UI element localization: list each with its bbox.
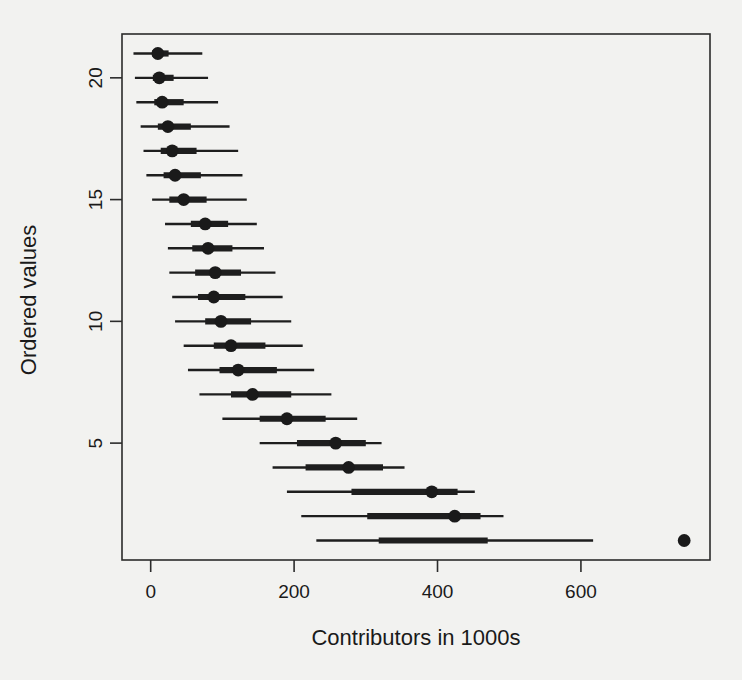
y-axis-tick-labels: 5101520 xyxy=(86,67,107,448)
interval-row xyxy=(188,364,314,377)
x-axis-tick-labels: 0200400600 xyxy=(145,581,596,602)
interval-row xyxy=(152,193,247,206)
median-point xyxy=(342,461,355,474)
y-axis-title: Ordered values xyxy=(16,225,41,375)
x-tick-label: 400 xyxy=(422,581,454,602)
interval-row xyxy=(273,461,405,474)
interval-row xyxy=(133,47,202,60)
median-point xyxy=(207,291,220,304)
interval-row xyxy=(199,388,331,401)
median-point xyxy=(177,193,190,206)
x-axis-title: Contributors in 1000s xyxy=(311,625,520,650)
interval-row xyxy=(222,412,357,425)
interval-row xyxy=(184,339,303,352)
median-point xyxy=(246,388,259,401)
median-point xyxy=(215,315,228,328)
interval-row xyxy=(165,218,257,231)
y-tick-label: 10 xyxy=(86,311,107,332)
x-tick-label: 200 xyxy=(278,581,310,602)
median-point xyxy=(281,412,294,425)
median-point xyxy=(161,120,174,133)
median-point xyxy=(151,47,164,60)
median-point xyxy=(209,266,222,279)
x-tick-label: 600 xyxy=(565,581,597,602)
median-point xyxy=(166,144,179,157)
interval-row xyxy=(146,169,242,182)
interval-row xyxy=(144,144,239,157)
x-axis-ticks xyxy=(151,560,581,572)
interval-row xyxy=(172,291,282,304)
y-tick-label: 15 xyxy=(86,189,107,210)
interval-row xyxy=(136,96,218,109)
median-point xyxy=(678,534,691,547)
interval-row xyxy=(260,437,382,450)
caterpillar-plot: 0200400600 5101520 Contributors in 1000s… xyxy=(0,0,742,680)
y-tick-label: 20 xyxy=(86,67,107,88)
interval-rows xyxy=(133,47,690,547)
median-point xyxy=(156,96,169,109)
interval-row xyxy=(169,266,275,279)
y-axis-ticks xyxy=(110,78,122,443)
median-point xyxy=(232,364,245,377)
interval-row xyxy=(141,120,230,133)
interval-row xyxy=(175,315,291,328)
interval-row xyxy=(168,242,264,255)
interval-row xyxy=(316,534,690,547)
median-point xyxy=(448,510,461,523)
interval-row xyxy=(135,71,208,84)
figure-canvas: 0200400600 5101520 Contributors in 1000s… xyxy=(0,0,742,680)
median-point xyxy=(425,485,438,498)
interval-row xyxy=(287,485,475,498)
x-tick-label: 0 xyxy=(145,581,156,602)
median-point xyxy=(202,242,215,255)
median-point xyxy=(169,169,182,182)
median-point xyxy=(225,339,238,352)
y-tick-label: 5 xyxy=(86,438,107,449)
interval-row xyxy=(301,510,503,523)
median-point xyxy=(153,71,166,84)
median-point xyxy=(329,437,342,450)
median-point xyxy=(199,218,212,231)
